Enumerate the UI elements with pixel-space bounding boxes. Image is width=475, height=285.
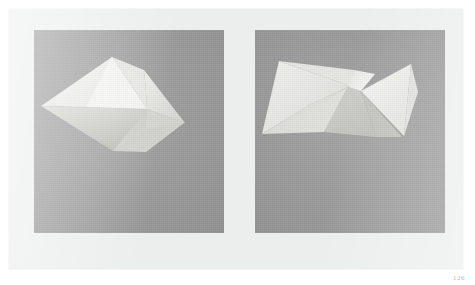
page-number: 126 xyxy=(453,275,465,282)
photographic-plate xyxy=(8,8,464,270)
figure-panel-right xyxy=(255,30,445,233)
right-figure-artwork xyxy=(255,30,445,233)
right-folded-paper-group xyxy=(262,61,418,137)
left-figure-artwork xyxy=(34,30,224,233)
left-folded-paper-group xyxy=(41,57,185,152)
plate-page: 126 xyxy=(0,0,475,285)
figure-panel-left xyxy=(34,30,224,233)
